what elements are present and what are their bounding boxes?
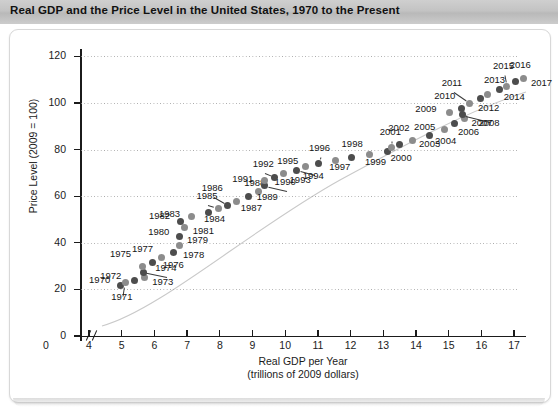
data-point <box>315 160 322 167</box>
data-point <box>484 91 491 98</box>
data-point-label: 1980 <box>148 227 169 237</box>
x-tick <box>481 330 482 337</box>
x-tick <box>121 330 122 337</box>
data-point <box>131 277 138 284</box>
data-point-label: 2013 <box>484 75 505 85</box>
x-tick-label: 4 <box>74 339 104 351</box>
data-point-label: 2009 <box>415 104 436 114</box>
x-tick <box>285 330 286 337</box>
label-leader-line <box>504 76 506 83</box>
data-point <box>302 163 309 170</box>
x-tick-label: 6 <box>139 339 169 351</box>
data-point-label: 2004 <box>435 136 456 146</box>
x-tick-label: 10 <box>270 339 300 351</box>
data-point-label: 2014 <box>504 92 525 102</box>
data-point-label: 1971 <box>111 292 132 302</box>
data-point-label: 1975 <box>110 249 131 259</box>
label-leader-line <box>453 93 466 103</box>
y-tick <box>74 56 81 57</box>
data-point <box>181 224 188 231</box>
y-tick <box>74 335 81 336</box>
label-leader-line <box>391 142 392 144</box>
data-point <box>271 174 278 181</box>
data-point-label: 1989 <box>257 192 278 202</box>
data-point-label: 2017 <box>531 78 552 88</box>
data-point-label: 1979 <box>187 235 208 245</box>
data-point-label: 1973 <box>152 277 173 287</box>
data-point-label: 1994 <box>303 171 324 181</box>
data-point <box>459 111 466 118</box>
x-axis-line <box>80 336 526 338</box>
data-point <box>176 242 183 249</box>
y-tick-label: 100 <box>32 96 66 108</box>
chart-screenshot: Real GDP and the Price Level in the Unit… <box>0 0 558 415</box>
y-tick <box>74 196 81 197</box>
data-point-label: 1978 <box>183 250 204 260</box>
data-point-label: 2012 <box>478 103 499 113</box>
data-point <box>441 126 448 133</box>
data-point-label: 2011 <box>442 78 462 88</box>
data-point <box>496 86 503 93</box>
data-point-label: 1981 <box>193 226 214 236</box>
data-point-label: 2010 <box>434 91 455 101</box>
data-point-label: 1977 <box>132 244 153 254</box>
data-point <box>233 198 240 205</box>
x-tick <box>252 330 253 337</box>
x-tick-label: 9 <box>238 339 268 351</box>
data-point <box>215 205 222 212</box>
data-point <box>280 170 287 177</box>
data-point <box>293 167 300 174</box>
x-tick <box>154 330 155 337</box>
data-point-label: 1996 <box>309 143 330 153</box>
label-leader-line <box>265 173 272 176</box>
data-point <box>388 144 395 151</box>
x-tick <box>383 330 384 337</box>
x-tick-label: 7 <box>172 339 202 351</box>
x-tick <box>513 330 514 337</box>
data-point-label: 1997 <box>329 162 350 172</box>
data-point <box>176 233 183 240</box>
data-point <box>426 132 433 139</box>
y-tick <box>74 102 81 103</box>
data-point-label: 2002 <box>388 123 409 133</box>
data-point-label: 2000 <box>391 153 412 163</box>
data-point-label: 1999 <box>365 157 386 167</box>
gridline <box>81 103 518 104</box>
data-point-label: 2008 <box>478 118 499 128</box>
x-tick <box>219 330 220 337</box>
x-axis-title-main: Real GDP per Year <box>258 355 347 367</box>
data-point <box>503 83 510 90</box>
x-tick-label: 5 <box>107 339 137 351</box>
y-tick <box>74 242 81 243</box>
y-tick-label: 120 <box>32 49 66 61</box>
x-tick-label: 17 <box>499 339 529 351</box>
data-point <box>409 137 416 144</box>
data-point-label: 1986 <box>202 183 223 193</box>
data-point-label: 2016 <box>510 60 531 70</box>
data-point-label: 1984 <box>204 214 225 224</box>
panel-shadow <box>13 398 545 407</box>
page-title: Real GDP and the Price Level in the Unit… <box>10 4 400 16</box>
x-tick-label: 12 <box>336 339 366 351</box>
y-tick-label: 40 <box>32 236 66 248</box>
y-tick <box>74 289 81 290</box>
label-leader-line <box>208 205 214 208</box>
data-point <box>512 78 519 85</box>
data-point-label: 1987 <box>241 203 262 213</box>
x-tick <box>448 330 449 337</box>
data-point <box>477 95 484 102</box>
x-tick-label: 8 <box>205 339 235 351</box>
data-point <box>466 100 473 107</box>
x-tick <box>88 330 89 337</box>
data-point-label: 2006 <box>458 127 479 137</box>
data-point <box>224 202 231 209</box>
x-tick-label: 0 <box>31 339 61 351</box>
data-point-label: 2005 <box>414 122 435 132</box>
y-tick-label: 60 <box>32 189 66 201</box>
title-bar: Real GDP and the Price Level in the Unit… <box>0 0 558 24</box>
chart-panel: Price Level (2009 = 100) Real GDP per Ye… <box>9 29 551 403</box>
data-point-label: 1992 <box>253 159 274 169</box>
y-axis-title: Price Level (2009 = 100) <box>27 61 39 251</box>
data-point-label: 1983 <box>159 209 180 219</box>
y-tick <box>74 149 81 150</box>
